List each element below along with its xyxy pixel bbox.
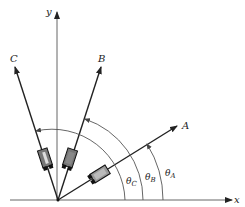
gauge-line-c xyxy=(15,67,58,200)
gauge-label-a: A xyxy=(181,120,189,131)
gauge-label-c: C xyxy=(10,53,18,64)
angle-label-c: θC xyxy=(126,176,137,188)
strain-gauge-c xyxy=(37,148,53,171)
x-axis-label: x xyxy=(234,194,240,205)
diagram-canvas: x y A B C θA θB θC xyxy=(0,0,245,207)
angle-label-a: θA xyxy=(165,168,175,180)
gauge-line-a xyxy=(58,126,177,200)
y-axis-label: y xyxy=(45,6,52,17)
gauge-label-b: B xyxy=(97,53,105,64)
angle-label-b: θB xyxy=(145,172,156,184)
strain-gauge-a xyxy=(87,165,110,185)
strain-gauge-diagram: x y A B C θA θB θC xyxy=(0,0,245,207)
strain-gauge-b xyxy=(62,148,78,171)
origin-point xyxy=(57,199,60,202)
